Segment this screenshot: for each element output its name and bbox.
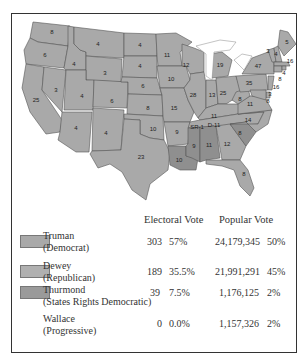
table-row-thurmond: Thurmond (States Rights Democratic) 39 7… xyxy=(0,284,308,314)
svg-text:23: 23 xyxy=(138,154,145,160)
state-wy xyxy=(86,56,122,82)
candidate-party: (Democrat) xyxy=(43,242,89,254)
svg-text:11: 11 xyxy=(211,113,218,119)
svg-text:19: 19 xyxy=(217,62,224,68)
candidate-name: Dewey xyxy=(43,260,95,272)
svg-text:SR-1: SR-1 xyxy=(190,124,204,130)
us-map: 8 6 25 3 4 4 3 4 6 4 4 4 4 6 8 10 23 11 … xyxy=(0,0,308,220)
svg-text:8: 8 xyxy=(278,76,282,82)
state-ct xyxy=(274,66,282,72)
candidate-name: Wallace xyxy=(43,313,96,325)
popular-votes: 1,176,125 xyxy=(219,287,259,298)
electoral-votes: 189 xyxy=(147,266,162,277)
svg-text:15: 15 xyxy=(171,105,178,111)
candidate-party: (Republican) xyxy=(43,272,95,284)
popular-votes: 24,179,345 xyxy=(215,236,260,247)
popular-pct: 2% xyxy=(267,318,280,329)
electoral-pct: 0.0% xyxy=(169,318,190,329)
svg-text:28: 28 xyxy=(190,92,197,98)
svg-text:25: 25 xyxy=(33,97,40,103)
candidate-name: Thurmond xyxy=(43,284,151,296)
state-fl xyxy=(206,160,254,196)
candidate-party: (States Rights Democratic) xyxy=(43,296,151,308)
svg-text:12: 12 xyxy=(224,141,231,147)
svg-text:11: 11 xyxy=(206,142,213,148)
electoral-votes: 303 xyxy=(147,236,162,247)
svg-text:3: 3 xyxy=(268,91,272,97)
candidate-name: Truman xyxy=(43,230,89,242)
electoral-vote-header: Electoral Vote xyxy=(144,214,203,225)
svg-text:16: 16 xyxy=(273,84,280,90)
electoral-pct: 7.5% xyxy=(169,287,190,298)
svg-text:25: 25 xyxy=(220,90,227,96)
popular-pct: 50% xyxy=(267,236,285,247)
state-nm xyxy=(92,108,124,151)
candidate-party: (Progressive) xyxy=(43,325,96,337)
electoral-votes: 0 xyxy=(157,318,162,329)
svg-text:10: 10 xyxy=(150,126,157,132)
popular-pct: 45% xyxy=(267,266,285,277)
state-az xyxy=(58,112,92,152)
table-row-wallace: Wallace (Progressive) 0 0.0% 1,157,326 2… xyxy=(0,313,308,343)
svg-text:13: 13 xyxy=(209,92,216,98)
svg-text:11: 11 xyxy=(247,101,254,107)
electoral-pct: 35.5% xyxy=(169,266,195,277)
state-ks xyxy=(127,94,163,116)
electoral-pct: 57% xyxy=(169,236,187,247)
svg-text:16: 16 xyxy=(287,58,294,64)
svg-text:8: 8 xyxy=(266,98,270,104)
svg-text:14: 14 xyxy=(245,117,252,123)
popular-votes: 1,157,326 xyxy=(219,318,259,329)
popular-pct: 2% xyxy=(267,287,280,298)
svg-text:35: 35 xyxy=(246,80,253,86)
svg-text:47: 47 xyxy=(255,63,262,69)
svg-text:12: 12 xyxy=(183,62,190,68)
svg-text:10: 10 xyxy=(176,157,183,163)
svg-text:11: 11 xyxy=(164,52,171,58)
svg-text:10: 10 xyxy=(168,76,175,82)
svg-text:D-11: D-11 xyxy=(208,122,221,128)
popular-votes: 21,991,291 xyxy=(215,266,260,277)
svg-text:4: 4 xyxy=(282,70,286,76)
table-row-truman: Truman (Democrat) 303 57% 24,179,345 50% xyxy=(0,230,308,260)
electoral-votes: 39 xyxy=(150,287,160,298)
popular-vote-header: Popular Vote xyxy=(219,214,273,225)
